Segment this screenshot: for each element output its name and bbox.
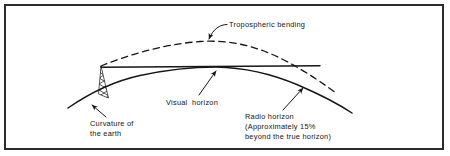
radio-horizon-leader	[283, 88, 303, 110]
radio-horizon-label-line2: (Approximately 15%	[245, 122, 316, 131]
straight-horizon-line	[101, 66, 320, 67]
figure-root: Tropospheric bending Visual horizon Curv…	[0, 0, 450, 156]
radio-horizon-label-line3: beyond the true horizon)	[245, 132, 331, 141]
tropospheric-bending-leader	[209, 25, 227, 40]
visual-horizon-label: Visual horizon	[166, 98, 218, 107]
curvature-label-line1: Curvature of	[90, 119, 134, 128]
radio-horizon-diagram: Tropospheric bending Visual horizon Curv…	[0, 0, 450, 156]
curvature-label-line2: the earth	[90, 129, 121, 138]
tropospheric-bending-label: Tropospheric bending	[229, 20, 305, 29]
curvature-leader	[92, 105, 106, 117]
visual-horizon-leader	[199, 71, 216, 95]
radio-horizon-label-line1: Radio horizon	[245, 112, 294, 121]
